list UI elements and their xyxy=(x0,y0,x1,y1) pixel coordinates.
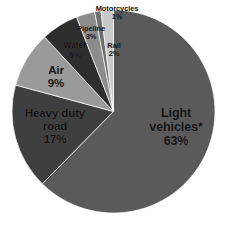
slice-label-water: Water 6% xyxy=(58,41,92,60)
slice-label-rail: Rail 2% xyxy=(100,42,128,59)
slice-value-light-vehicles: 63% xyxy=(138,134,214,148)
slice-label-heavy-duty-road-line1: Heavy duty xyxy=(18,107,92,120)
slice-label-heavy-duty-road: Heavy duty road 17% xyxy=(18,107,92,146)
slice-label-light-vehicles: Light vehicles* 63% xyxy=(138,106,214,148)
slice-label-light-vehicles-line2: vehicles* xyxy=(138,120,214,134)
slice-value-air: 9% xyxy=(36,77,76,90)
pie-chart: Light vehicles* 63% Heavy duty road 17% … xyxy=(0,0,228,225)
slice-label-air: Air 9% xyxy=(36,64,76,90)
slice-value-water: 6% xyxy=(58,51,92,61)
slice-label-air-text: Air xyxy=(36,64,76,77)
slice-label-heavy-duty-road-line2: road xyxy=(18,120,92,133)
slice-label-light-vehicles-line1: Light xyxy=(138,106,214,120)
slice-value-motorcycles: 1% xyxy=(86,13,148,21)
slice-label-pipeline: Pipeline 3% xyxy=(70,25,112,42)
slice-value-heavy-duty-road: 17% xyxy=(18,133,92,146)
slice-value-rail: 2% xyxy=(100,50,128,58)
slice-value-pipeline: 3% xyxy=(70,33,112,41)
slice-label-motorcycles: Motorcycles 1% xyxy=(86,5,148,22)
